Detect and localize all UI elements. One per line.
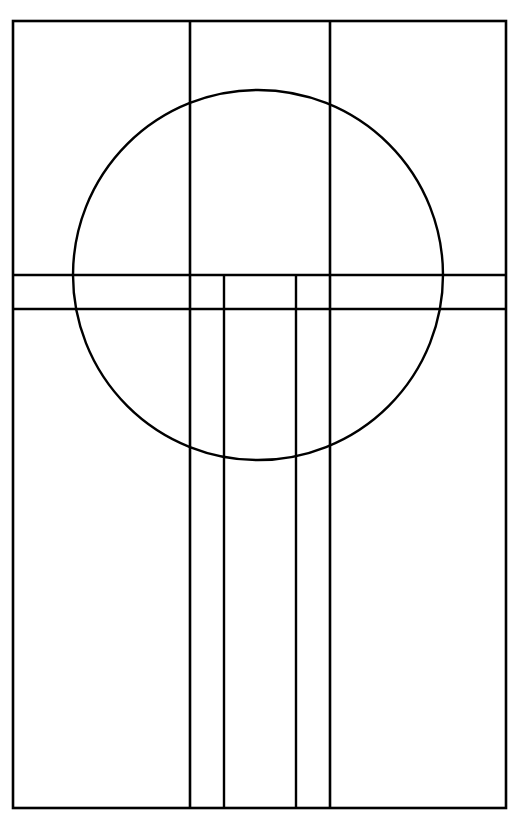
page-background (0, 0, 518, 817)
geometric-figure (0, 0, 518, 817)
drawing-canvas (0, 0, 518, 817)
